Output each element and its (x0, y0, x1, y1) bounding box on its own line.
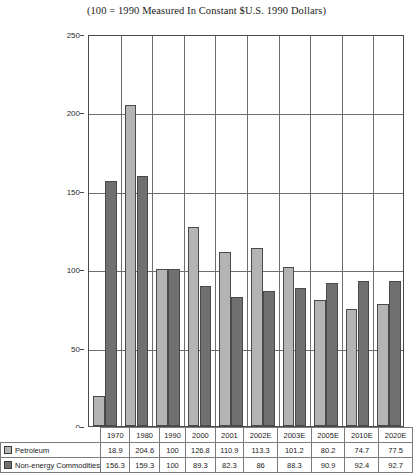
table-corner-cell (1, 428, 101, 443)
x-axis-label-2010E: 2010E (345, 428, 379, 443)
x-axis-label-2003E: 2003E (277, 428, 311, 443)
chart-title: (100 = 1990 Measured In Constant $U.S. 1… (0, 5, 413, 16)
table-cell-1990: 100 (159, 443, 185, 458)
y-tick-mark-150 (80, 192, 84, 193)
x-axis-label-2000: 2000 (186, 428, 215, 443)
bar-petroleum-1980 (125, 105, 137, 426)
bar-non-energy-commodities-1970 (105, 181, 117, 426)
bar-petroleum-2002E (251, 248, 263, 426)
x-axis-label-2001: 2001 (215, 428, 244, 443)
table-cell-2002E: 113.3 (244, 443, 278, 458)
y-tick-mark-100 (80, 270, 84, 271)
bar-petroleum-2000 (188, 227, 200, 426)
plot-area (88, 35, 404, 427)
table-cell-2001: 82.3 (215, 458, 244, 473)
y-tick-label-50: 50 (71, 344, 80, 353)
bars-layer (89, 36, 403, 426)
x-axis-label-1990: 1990 (159, 428, 185, 443)
table-row: Petroleum18.9204.6100126.8110.9113.3101.… (1, 443, 413, 458)
legend-swatch-icon (4, 446, 12, 454)
bar-petroleum-2001 (219, 252, 231, 426)
bar-non-energy-commodities-2002E (263, 291, 275, 426)
y-tick-label-150: 150 (67, 187, 80, 196)
table-cell-1980: 204.6 (130, 443, 159, 458)
legend-swatch-icon (4, 461, 12, 469)
x-axis-label-1980: 1980 (130, 428, 159, 443)
table-cell-2000: 89.3 (186, 458, 215, 473)
legend-label: Non-energy Commodities (15, 461, 100, 470)
bar-petroleum-1990 (156, 269, 168, 426)
table-cell-1990: 100 (159, 458, 185, 473)
table-cell-1970: 18.9 (101, 443, 130, 458)
bar-non-energy-commodities-2010E (358, 281, 370, 426)
bar-petroleum-2020E (377, 304, 389, 426)
x-axis-label-2020E: 2020E (379, 428, 413, 443)
bar-petroleum-2003E (283, 267, 295, 426)
x-axis-label-1970: 1970 (101, 428, 130, 443)
table-row: Non-energy Commodities156.3159.310089.38… (1, 458, 413, 473)
bar-non-energy-commodities-2003E (295, 288, 307, 426)
table-cell-2010E: 92.4 (345, 458, 379, 473)
table-cell-2001: 110.9 (215, 443, 244, 458)
bar-petroleum-2010E (346, 309, 358, 426)
y-tick-label-100: 100 (67, 266, 80, 275)
y-tick-mark-200 (80, 113, 84, 114)
y-tick-label-200: 200 (67, 109, 80, 118)
bar-petroleum-1970 (93, 396, 105, 426)
data-table: 197019801990200020012002E2003E2005E2010E… (0, 427, 413, 473)
table-cell-2020E: 92.7 (379, 458, 413, 473)
table-header-row: 197019801990200020012002E2003E2005E2010E… (1, 428, 413, 443)
y-axis: 050100150200250 (48, 35, 84, 427)
table-cell-2003E: 88.3 (277, 458, 311, 473)
table-cell-2005E: 90.9 (311, 458, 345, 473)
y-tick-label-250: 250 (67, 31, 80, 40)
bar-petroleum-2005E (314, 300, 326, 426)
y-tick-mark-250 (80, 35, 84, 36)
table-cell-2020E: 77.5 (379, 443, 413, 458)
x-axis-label-2005E: 2005E (311, 428, 345, 443)
y-tick-mark-50 (80, 349, 84, 350)
bar-non-energy-commodities-2001 (231, 297, 243, 426)
table-cell-1970: 156.3 (101, 458, 130, 473)
bar-non-energy-commodities-1990 (168, 269, 180, 426)
x-axis-label-2002E: 2002E (244, 428, 278, 443)
legend-item-non-energy-commodities: Non-energy Commodities (1, 458, 101, 473)
bar-non-energy-commodities-2020E (389, 281, 401, 426)
bar-non-energy-commodities-2000 (200, 286, 212, 426)
table-cell-2000: 126.8 (186, 443, 215, 458)
table-cell-2010E: 74.7 (345, 443, 379, 458)
table-cell-2005E: 80.2 (311, 443, 345, 458)
legend-label: Petroleum (15, 446, 49, 455)
legend-item-petroleum: Petroleum (1, 443, 101, 458)
table-cell-2002E: 86 (244, 458, 278, 473)
bar-non-energy-commodities-1980 (137, 176, 149, 426)
bar-non-energy-commodities-2005E (326, 283, 338, 426)
table-cell-2003E: 101.2 (277, 443, 311, 458)
table-cell-1980: 159.3 (130, 458, 159, 473)
